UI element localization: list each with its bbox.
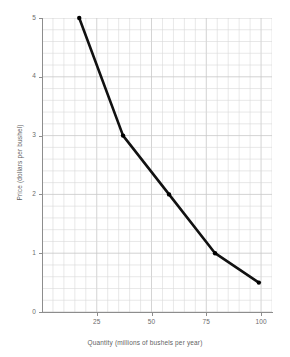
y-axis-line bbox=[42, 18, 43, 313]
data-point-marker bbox=[213, 251, 217, 255]
x-tick-label: 50 bbox=[140, 319, 164, 326]
data-point-marker bbox=[121, 133, 125, 137]
x-tick-mark bbox=[97, 313, 98, 316]
data-point-marker bbox=[77, 16, 81, 20]
y-tick-mark bbox=[39, 136, 42, 137]
x-axis-line bbox=[42, 312, 273, 313]
x-tick-label: 75 bbox=[194, 319, 218, 326]
y-tick-mark bbox=[39, 312, 42, 313]
y-tick-mark bbox=[39, 194, 42, 195]
data-point-marker bbox=[257, 280, 261, 284]
y-tick-mark bbox=[39, 77, 42, 78]
y-tick-label: 1 bbox=[18, 250, 36, 257]
plot-area bbox=[42, 18, 272, 312]
y-tick-mark bbox=[39, 253, 42, 254]
demand-curve-figure: 012345 255075100 Price (dollars per bush… bbox=[0, 0, 290, 357]
y-tick-label: 4 bbox=[18, 73, 36, 80]
x-tick-mark bbox=[206, 313, 207, 316]
x-tick-label: 100 bbox=[249, 319, 273, 326]
y-axis-title: Price (dollars per bushel) bbox=[16, 93, 23, 233]
y-tick-label: 0 bbox=[18, 309, 36, 316]
demand-curve-line bbox=[79, 18, 259, 283]
demand-curve-series bbox=[42, 18, 272, 312]
y-tick-mark bbox=[39, 18, 42, 19]
y-tick-label: 5 bbox=[18, 15, 36, 22]
x-tick-mark bbox=[261, 313, 262, 316]
data-point-marker bbox=[167, 192, 171, 196]
x-tick-label: 25 bbox=[85, 319, 109, 326]
x-axis-title: Quantity (millions of bushels per year) bbox=[0, 339, 290, 346]
x-tick-mark bbox=[152, 313, 153, 316]
